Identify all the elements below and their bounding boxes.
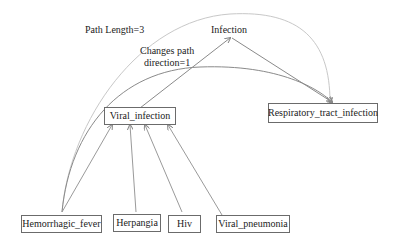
edge-viral-pneumonia-to-viral xyxy=(168,125,222,215)
changes-direction-line2: direction=1 xyxy=(140,57,194,69)
node-hemorrhagic-label: Hemorrhagic_fever xyxy=(22,219,100,229)
node-respiratory-tract-infection[interactable]: Respiratory_tract_infection xyxy=(268,103,378,123)
changes-direction-line1: Changes path xyxy=(140,45,194,57)
node-herpangia-label: Herpangia xyxy=(116,218,158,228)
node-herpangia[interactable]: Herpangia xyxy=(113,214,161,232)
node-viral-pneumonia[interactable]: Viral_pneumonia xyxy=(216,215,290,233)
path-length-label: Path Length=3 xyxy=(85,24,144,36)
edge-hiv-to-viral xyxy=(145,125,182,212)
node-hemorrhagic-fever[interactable]: Hemorrhagic_fever xyxy=(21,215,102,233)
node-respiratory-label: Respiratory_tract_infection xyxy=(268,108,378,118)
node-viral-infection-label: Viral_infection xyxy=(110,111,171,121)
node-viral-pneumonia-label: Viral_pneumonia xyxy=(218,219,287,229)
edge-hemorrhagic-respiratory xyxy=(62,67,332,212)
node-viral-infection[interactable]: Viral_infection xyxy=(104,107,176,125)
node-infection[interactable]: Infection xyxy=(211,24,247,36)
edge-herpangia-to-viral xyxy=(130,125,136,212)
changes-direction-label: Changes path direction=1 xyxy=(140,45,194,68)
edge-hemorrhagic-to-viral xyxy=(62,125,112,212)
node-hiv-label: Hiv xyxy=(177,219,192,229)
edge-infection-to-respiratory xyxy=(232,38,332,102)
node-hiv[interactable]: Hiv xyxy=(168,215,201,233)
